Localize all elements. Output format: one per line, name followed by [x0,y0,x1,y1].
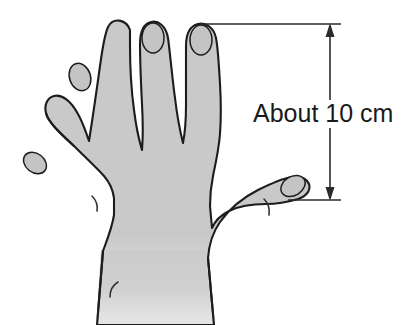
arrow-up-icon [326,23,335,37]
dimension-annotation: About 10 cm About 10 cm [200,23,393,201]
index-finger-nail [190,25,212,55]
middle-finger-nail [142,23,164,53]
dimension-label: About 10 cm [253,99,393,127]
hand-measurement-figure: About 10 cm About 10 cm [0,0,416,325]
hand-illustration [19,21,309,325]
arrow-down-icon [326,187,335,201]
figure-root: About 10 cm About 10 cm [0,0,416,325]
pinky-web-crease [92,196,97,211]
pinky-nail [19,148,50,178]
ring-finger-nail [66,60,95,93]
